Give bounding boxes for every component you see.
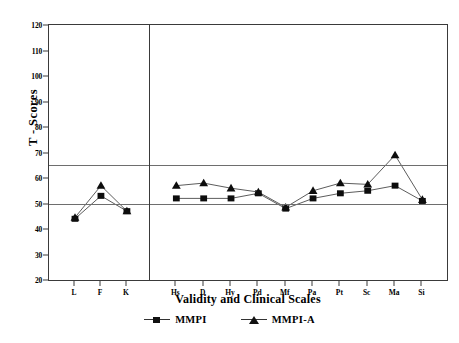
- legend-item-mmpi[interactable]: MMPI: [144, 314, 207, 325]
- x-tick-mark: [366, 281, 367, 286]
- y-tick-label: 30: [35, 250, 42, 259]
- y-tick-label: 50: [35, 199, 42, 208]
- x-tick-mark: [175, 281, 176, 286]
- x-tick-mark: [99, 281, 100, 286]
- y-axis-ticks: 2030405060708090100110120: [0, 24, 48, 281]
- y-tick-label: 40: [35, 225, 42, 234]
- x-tick-mark: [202, 281, 203, 286]
- x-tick-mark: [230, 281, 231, 286]
- x-tick-mark: [125, 281, 126, 286]
- y-tick-label: 20: [35, 276, 42, 285]
- reference-line-65: [49, 165, 447, 166]
- legend-label: MMPI-A: [272, 314, 315, 325]
- x-tick-mark: [284, 281, 285, 286]
- panel-divider: [149, 25, 150, 280]
- legend-label: MMPI: [175, 314, 207, 325]
- data-point-hs: [173, 195, 180, 201]
- data-point-f: [98, 193, 105, 199]
- legend-item-mmpi-a[interactable]: MMPI-A: [241, 314, 315, 325]
- y-tick-label: 80: [35, 123, 42, 132]
- y-tick-label: 70: [35, 148, 42, 157]
- series-line: [176, 155, 422, 207]
- triangle-marker-icon: [241, 314, 267, 325]
- x-tick-mark: [421, 281, 422, 286]
- y-tick-label: 110: [32, 46, 42, 55]
- data-point-ma: [391, 151, 400, 159]
- y-tick-label: 120: [31, 21, 42, 30]
- y-tick-label: 60: [35, 174, 42, 183]
- square-marker-icon: [144, 314, 170, 325]
- series-line: [75, 186, 127, 218]
- data-point-f: [97, 181, 106, 189]
- y-tick-label: 90: [35, 97, 42, 106]
- x-tick-mark: [312, 281, 313, 286]
- chart-legend: MMPI MMPI-A: [0, 314, 459, 325]
- x-tick-mark: [394, 281, 395, 286]
- x-tick-mark: [339, 281, 340, 286]
- series-mmpi: [72, 183, 426, 222]
- data-point-pt: [337, 190, 344, 196]
- data-point-d: [200, 195, 207, 201]
- y-tick-label: 100: [31, 72, 42, 81]
- x-tick-mark: [257, 281, 258, 286]
- data-point-pt: [336, 179, 345, 187]
- data-point-hy: [228, 195, 235, 201]
- data-point-ma: [392, 183, 399, 189]
- data-point-sc: [364, 188, 371, 194]
- plot-area: [48, 24, 448, 281]
- series-layer: [49, 25, 447, 280]
- x-tick-mark: [73, 281, 74, 286]
- series-line: [176, 186, 422, 209]
- reference-line-50: [49, 204, 447, 205]
- data-point-pa: [310, 195, 317, 201]
- chart-root: T - Scores 2030405060708090100110120 LFK…: [0, 0, 459, 343]
- x-axis-title: Validity and Clinical Scales: [48, 292, 448, 307]
- data-point-d: [199, 179, 208, 187]
